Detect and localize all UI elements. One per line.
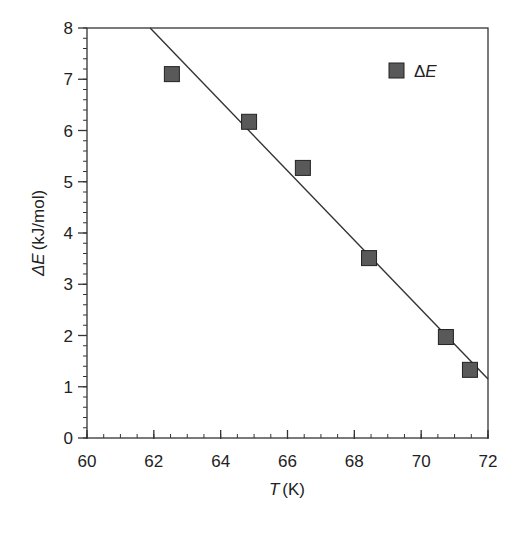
- y-tick-label: 3: [64, 275, 73, 294]
- data-point-square-icon: [295, 160, 310, 175]
- y-tick-label: 1: [64, 378, 73, 397]
- plot-border: [87, 28, 488, 438]
- legend-marker-square-icon: [389, 63, 404, 78]
- data-markers: [164, 67, 477, 378]
- minor-ticks: [83, 28, 488, 438]
- chart-canvas: 60626466687072 012345678 ΔE T(K) ΔE(kJ/m…: [0, 0, 520, 537]
- x-tick-label: 70: [412, 452, 431, 471]
- y-tick-label: 4: [64, 224, 73, 243]
- y-tick-labels: 012345678: [64, 19, 73, 448]
- y-tick-label: 2: [64, 327, 73, 346]
- x-tick-label: 60: [78, 452, 97, 471]
- x-tick-label: 64: [211, 452, 230, 471]
- x-axis-title: T(K): [269, 480, 305, 499]
- y-tick-label: 5: [64, 173, 73, 192]
- x-tick-label: 66: [278, 452, 297, 471]
- data-point-square-icon: [462, 362, 477, 377]
- x-tick-label: 62: [144, 452, 163, 471]
- y-tick-label: 8: [64, 19, 73, 38]
- data-point-square-icon: [438, 330, 453, 345]
- y-tick-label: 6: [64, 122, 73, 141]
- fit-line-segment: [150, 28, 488, 379]
- legend-label: ΔE: [414, 62, 437, 81]
- data-point-square-icon: [362, 251, 377, 266]
- x-tick-label: 72: [479, 452, 498, 471]
- y-tick-label: 0: [64, 429, 73, 448]
- y-tick-label: 7: [64, 70, 73, 89]
- major-ticks: [78, 28, 488, 439]
- plot-frame: [87, 28, 488, 438]
- x-tick-labels: 60626466687072: [78, 452, 498, 471]
- legend: ΔE: [389, 62, 437, 81]
- data-point-square-icon: [242, 114, 257, 129]
- data-point-square-icon: [164, 67, 179, 82]
- fit-line: [150, 28, 488, 379]
- x-tick-label: 68: [345, 452, 364, 471]
- y-axis-title: ΔE(kJ/mol): [29, 190, 48, 277]
